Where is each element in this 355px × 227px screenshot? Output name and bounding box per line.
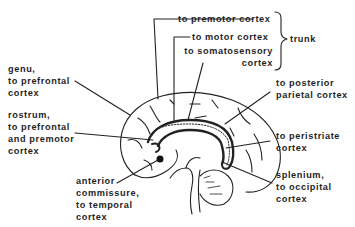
label-rostrum: rostrum, to prefrontal and premotor cort… [8, 109, 74, 157]
label-line: rostrum, [8, 109, 74, 121]
label-line: to premotor cortex [178, 13, 270, 25]
trunk-brace [275, 12, 287, 70]
label-line: cortex [76, 211, 139, 223]
label-line: to posterior [276, 77, 348, 89]
label-line: cortex [276, 142, 340, 154]
label-line: to motor cortex [192, 31, 268, 43]
label-line: commissure, [76, 187, 139, 199]
label-line: trunk [290, 33, 316, 45]
cerebellum [200, 170, 233, 205]
label-peristriate: to peristriate cortex [276, 130, 340, 154]
leader-rostrum [75, 133, 153, 140]
label-somatosensory: to somatosensory cortex [181, 45, 273, 69]
label-genu: genu, to prefrontal cortex [8, 63, 70, 99]
label-line: parietal cortex [276, 89, 348, 101]
label-line: and premotor [8, 133, 74, 145]
leader-somatosensory [188, 63, 203, 120]
label-line: cortex [181, 57, 273, 69]
leader-genu [75, 81, 130, 115]
label-line: splenium, [276, 169, 332, 181]
label-line: genu, [8, 63, 70, 75]
label-premotor: to premotor cortex [178, 13, 270, 25]
label-line: cortex [8, 145, 74, 157]
label-anterior-commissure: anterior commissure, to temporal cortex [76, 175, 139, 223]
label-posterior-parietal: to posterior parietal cortex [276, 77, 348, 101]
leader-splenium [222, 162, 272, 183]
label-line: cortex [276, 193, 332, 205]
label-line: to occipital [276, 181, 332, 193]
label-line: to somatosensory [181, 45, 273, 57]
label-splenium: splenium, to occipital cortex [276, 169, 332, 205]
label-line: to prefrontal [8, 75, 70, 87]
label-line: to peristriate [276, 130, 340, 142]
label-line: to prefrontal [8, 121, 74, 133]
label-line: to temporal [76, 199, 139, 211]
label-trunk: trunk [290, 33, 316, 45]
label-motor: to motor cortex [192, 31, 268, 43]
label-line: cortex [8, 87, 70, 99]
label-line: anterior [76, 175, 139, 187]
